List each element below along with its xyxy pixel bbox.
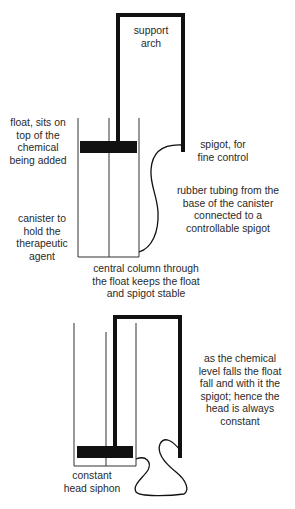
- label-line: canister to: [10, 213, 74, 226]
- label-line: constant: [192, 416, 288, 429]
- label-line: the float keeps the float: [84, 276, 208, 289]
- label-line: float, sits on: [2, 117, 74, 130]
- float-top: [80, 141, 137, 153]
- label-line: head is always: [192, 403, 288, 416]
- label-line: fine control: [190, 152, 256, 165]
- label-line: level falls the float: [192, 366, 288, 379]
- label-support-arch: support arch: [126, 25, 176, 50]
- label-constant-head-siphon: constant head siphon: [60, 470, 124, 495]
- label-line: being added: [2, 155, 74, 168]
- label-line: base of the canister: [168, 198, 288, 211]
- label-central-column: central column through the float keeps t…: [84, 263, 208, 301]
- label-line: connected to a: [168, 210, 288, 223]
- label-line: therapeutic: [10, 238, 74, 251]
- canister-bottom: [74, 323, 136, 466]
- label-explanation: as the chemical level falls the float fa…: [192, 353, 288, 429]
- label-line: spigot; hence the: [192, 391, 288, 404]
- label-line: top of the: [2, 130, 74, 143]
- label-line: agent: [10, 251, 74, 264]
- support-arch-bottom: [115, 317, 180, 458]
- bottom-assembly: [74, 317, 187, 496]
- label-line: arch: [126, 38, 176, 51]
- label-float: float, sits on top of the chemical being…: [2, 117, 74, 167]
- label-line: head siphon: [60, 483, 124, 496]
- label-line: central column through: [84, 263, 208, 276]
- label-line: as the chemical: [192, 353, 288, 366]
- label-rubber-tubing: rubber tubing from the base of the canis…: [168, 185, 288, 235]
- label-canister: canister to hold the therapeutic agent: [10, 213, 74, 263]
- label-spigot: spigot, for fine control: [190, 139, 256, 164]
- label-line: and spigot stable: [84, 288, 208, 301]
- label-line: rubber tubing from the: [168, 185, 288, 198]
- float-bottom: [77, 446, 133, 458]
- label-line: support: [126, 25, 176, 38]
- label-line: chemical: [2, 142, 74, 155]
- label-line: spigot, for: [190, 139, 256, 152]
- label-line: constant: [60, 470, 124, 483]
- label-line: fall and with it the: [192, 378, 288, 391]
- rubber-tubing-bottom: [135, 440, 187, 496]
- label-line: hold the: [10, 226, 74, 239]
- label-line: controllable spigot: [168, 223, 288, 236]
